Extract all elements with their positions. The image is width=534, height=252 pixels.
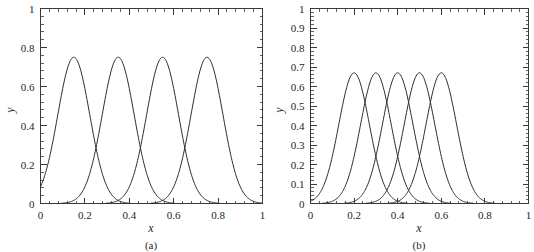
y-tick-label: 0.9 <box>291 22 305 34</box>
y-tick-label: 0.1 <box>291 178 305 190</box>
y-tick-label: 1 <box>29 3 35 15</box>
panel-a-tick-labels: 00.20.40.60.8100.20.40.60.81 <box>21 3 266 221</box>
y-tick-label: 1 <box>299 3 305 15</box>
panel-a-xlabel: x <box>147 221 154 235</box>
y-tick-label: 0.6 <box>21 81 35 93</box>
curve-basis-1 <box>41 57 130 203</box>
figure-container: 00.20.40.60.8100.20.40.60.81 x y (a) 00.… <box>0 0 534 252</box>
panel-b-xlabel: x <box>415 221 422 235</box>
y-tick-label: 0.2 <box>21 159 35 171</box>
curve-basis-4 <box>151 57 263 203</box>
panel-a-curves <box>41 57 263 203</box>
curve-basis-4 <box>366 73 472 203</box>
curve-basis-2 <box>62 57 174 203</box>
x-tick-label: 0 <box>38 209 44 221</box>
x-tick-label: 1 <box>260 209 266 221</box>
x-tick-label: 0.4 <box>122 209 136 221</box>
y-tick-label: 0.5 <box>291 100 305 112</box>
curve-basis-3 <box>106 57 218 203</box>
x-tick-label: 0.4 <box>391 209 405 221</box>
panel-b-ylabel: y <box>272 107 286 114</box>
panel-b-tick-labels: 00.20.40.60.8100.10.20.30.40.50.60.70.80… <box>291 3 532 221</box>
panel-a-axes <box>41 9 263 204</box>
panel-b: 00.20.40.60.8100.10.20.30.40.50.60.70.80… <box>267 0 534 252</box>
y-tick-label: 0.6 <box>291 81 305 93</box>
panel-b-ticks <box>311 9 529 204</box>
x-tick-label: 0 <box>308 209 314 221</box>
x-tick-label: 0.6 <box>434 209 448 221</box>
x-tick-label: 0.8 <box>211 209 225 221</box>
y-tick-label: 0.8 <box>21 42 35 54</box>
curve-basis-5 <box>388 73 494 203</box>
x-tick-label: 0.8 <box>478 209 492 221</box>
x-tick-label: 0.2 <box>78 209 92 221</box>
curve-basis-3 <box>345 73 451 203</box>
panel-a: 00.20.40.60.8100.20.40.60.81 x y (a) <box>0 0 267 252</box>
y-tick-label: 0.4 <box>291 120 305 132</box>
panel-a-subcaption: (a) <box>145 239 158 252</box>
panel-a-ticks <box>41 9 263 204</box>
curve-basis-2 <box>323 73 429 203</box>
x-tick-label: 0.6 <box>167 209 181 221</box>
panel-a-plot: 00.20.40.60.8100.20.40.60.81 x y (a) <box>0 0 267 252</box>
panel-b-axes <box>311 9 529 204</box>
panel-b-curves <box>311 73 495 203</box>
y-tick-label: 0.8 <box>291 42 305 54</box>
plot-frame-b <box>311 9 529 204</box>
y-tick-label: 0.7 <box>291 61 305 73</box>
y-tick-label: 0.4 <box>21 120 35 132</box>
y-tick-label: 0 <box>29 198 35 210</box>
x-tick-label: 1 <box>526 209 532 221</box>
y-tick-label: 0.2 <box>291 159 305 171</box>
y-tick-label: 0.3 <box>291 139 305 151</box>
panel-b-plot: 00.20.40.60.8100.10.20.30.40.50.60.70.80… <box>267 0 534 252</box>
curve-basis-1 <box>311 73 408 203</box>
x-tick-label: 0.2 <box>347 209 361 221</box>
y-tick-label: 0 <box>299 198 305 210</box>
panel-a-ylabel: y <box>3 107 17 114</box>
panel-b-subcaption: (b) <box>413 239 426 252</box>
plot-frame-a <box>41 9 263 204</box>
